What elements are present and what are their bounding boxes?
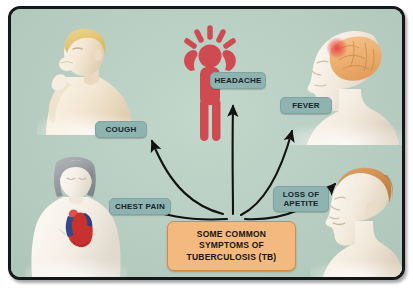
illustration-man-coughing bbox=[37, 23, 141, 135]
symptom-label-headache[interactable]: HEADACHE bbox=[210, 72, 266, 89]
symptom-label-fever[interactable]: FEVER bbox=[280, 97, 332, 114]
illustration-head-profile-brain bbox=[287, 19, 405, 145]
poster-canvas: COUGH HEADACHE FEVER CHEST PAIN LOSS OF … bbox=[11, 9, 402, 277]
infographic-poster: COUGH HEADACHE FEVER CHEST PAIN LOSS OF … bbox=[8, 6, 405, 280]
symptom-label-chest-pain[interactable]: CHEST PAIN bbox=[109, 198, 171, 215]
central-title-box: SOME COMMON SYMPTOMS OF TUBERCULOSIS (TB… bbox=[167, 221, 296, 271]
illustration-male-head-profile bbox=[311, 159, 405, 277]
symptom-label-loss-of-appetite[interactable]: LOSS OF APETITE bbox=[273, 186, 329, 212]
symptom-label-cough[interactable]: COUGH bbox=[95, 121, 147, 138]
title-line-1: SOME COMMON bbox=[197, 229, 266, 241]
title-line-3: TUBERCULOSIS (TB) bbox=[187, 252, 277, 264]
title-line-2: SYMPTOMS OF bbox=[199, 240, 264, 252]
